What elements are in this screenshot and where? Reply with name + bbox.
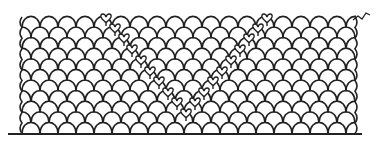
- scale-arc: [337, 48, 355, 59]
- scale-arc: [67, 91, 85, 102]
- scale-arc: [310, 101, 328, 112]
- scale-arc: [67, 48, 85, 59]
- scale-arc: [58, 80, 76, 91]
- scale-arc: [67, 112, 85, 123]
- scale-arc: [94, 101, 112, 112]
- scale-arc: [184, 16, 202, 27]
- scale-arc: [274, 59, 292, 70]
- scale-arc: [94, 122, 112, 133]
- scale-arc: [265, 69, 283, 80]
- heart-icon: [163, 88, 173, 100]
- scale-arc: [58, 38, 76, 49]
- scale-arc: [112, 122, 130, 133]
- scale-arc: [76, 101, 94, 112]
- scale-arc: [292, 122, 310, 133]
- scale-arc: [85, 91, 103, 102]
- scale-arc: [103, 69, 121, 80]
- scale-arc: [58, 16, 76, 27]
- scale-arc: [256, 122, 274, 133]
- scale-arc: [337, 69, 355, 80]
- scale-arc: [283, 91, 301, 102]
- scale-arc: [40, 80, 58, 91]
- scale-arc: [31, 69, 49, 80]
- scale-arc: [58, 59, 76, 70]
- scale-arc: [139, 91, 157, 102]
- heart-icon: [208, 77, 218, 89]
- heart-icon: [136, 56, 146, 68]
- scale-arc: [148, 101, 166, 112]
- heart-icon: [172, 98, 182, 110]
- scale-arc: [310, 16, 328, 27]
- scale-arc: [58, 101, 76, 112]
- scale-arc: [166, 122, 184, 133]
- scale-arc: [229, 69, 247, 80]
- scale-arc: [319, 91, 337, 102]
- scale-arc: [85, 69, 103, 80]
- scale-arc: [247, 69, 265, 80]
- heart-icon: [110, 24, 120, 36]
- scale-arc: [76, 59, 94, 70]
- scallop-pattern-drawing: [0, 0, 387, 141]
- scale-arc: [328, 16, 346, 27]
- heart-icon: [226, 56, 236, 68]
- scale-arc: [184, 38, 202, 49]
- heart-icon: [262, 14, 272, 26]
- heart-icon: [181, 109, 191, 121]
- scale-arc: [283, 112, 301, 123]
- heart-icon: [119, 34, 129, 46]
- scale-arc: [175, 27, 193, 38]
- scale-arc: [328, 122, 346, 133]
- scale-arc: [121, 91, 139, 102]
- scale-arc: [103, 112, 121, 123]
- heart-icon: [199, 88, 209, 100]
- scale-arc: [49, 69, 67, 80]
- scale-arc: [94, 80, 112, 91]
- scale-arc: [94, 38, 112, 49]
- heart-icon: [101, 14, 111, 26]
- scale-arc: [328, 38, 346, 49]
- scale-arc: [67, 69, 85, 80]
- scale-arc: [166, 16, 184, 27]
- heart-icon: [127, 45, 137, 57]
- scale-arc: [130, 122, 148, 133]
- scale-arc: [265, 27, 283, 38]
- scale-arc: [292, 59, 310, 70]
- scale-arc: [193, 27, 211, 38]
- scale-arc: [184, 122, 202, 133]
- scale-arc: [202, 101, 220, 112]
- lace-pattern-figure: [0, 0, 387, 141]
- scale-arc: [49, 48, 67, 59]
- scale-arc: [229, 112, 247, 123]
- scale-arc: [238, 59, 256, 70]
- scale-arc: [247, 48, 265, 59]
- scale-arc: [193, 48, 211, 59]
- scale-arc: [265, 112, 283, 123]
- scale-arc: [76, 16, 94, 27]
- scale-arc: [112, 59, 130, 70]
- scale-arc: [283, 27, 301, 38]
- scale-arc: [40, 16, 58, 27]
- scale-arc: [301, 27, 319, 38]
- scale-arc: [49, 112, 67, 123]
- scale-arc: [202, 16, 220, 27]
- heart-icon: [253, 24, 263, 36]
- scale-arc: [184, 59, 202, 70]
- scale-arc: [49, 91, 67, 102]
- heart-icon: [190, 98, 200, 110]
- scale-arc: [283, 69, 301, 80]
- scale-arc: [310, 38, 328, 49]
- scale-arc: [274, 38, 292, 49]
- scale-arc: [139, 112, 157, 123]
- scale-arc: [112, 80, 130, 91]
- scale-arc: [76, 122, 94, 133]
- scale-arc: [157, 112, 175, 123]
- scale-arc: [31, 27, 49, 38]
- heart-icon: [235, 45, 245, 57]
- scale-arc: [328, 80, 346, 91]
- scale-arc: [22, 122, 40, 133]
- scale-arc: [274, 122, 292, 133]
- scale-arc: [283, 48, 301, 59]
- scale-arc: [274, 16, 292, 27]
- scale-arc: [337, 112, 355, 123]
- scale-arc: [301, 48, 319, 59]
